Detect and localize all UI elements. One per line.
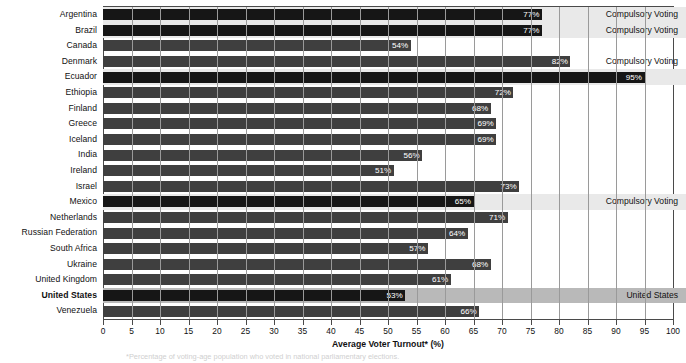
bar-value-label: 95% bbox=[103, 72, 645, 83]
category-label: Ecuador bbox=[0, 69, 97, 85]
gridline bbox=[531, 7, 532, 320]
bar-value-label: 56% bbox=[103, 150, 422, 161]
table-row: Iceland69% bbox=[0, 132, 686, 148]
tick-mark bbox=[388, 320, 389, 325]
table-row: United Kingdom61% bbox=[0, 272, 686, 288]
gridline bbox=[645, 7, 646, 320]
tick-label: 45 bbox=[355, 326, 364, 336]
gridline bbox=[474, 7, 475, 320]
table-row: Ecuador95% bbox=[0, 69, 686, 85]
tick-label: 65 bbox=[469, 326, 478, 336]
tick-mark bbox=[189, 320, 190, 325]
tick-mark bbox=[417, 320, 418, 325]
tick-label: 80 bbox=[554, 326, 563, 336]
tick-mark bbox=[559, 320, 560, 325]
category-label: Brazil bbox=[0, 23, 97, 39]
tick-label: 90 bbox=[611, 326, 620, 336]
tick-mark bbox=[246, 320, 247, 325]
category-label: Greece bbox=[0, 116, 97, 132]
tick-label: 40 bbox=[326, 326, 335, 336]
gridline bbox=[160, 7, 161, 320]
bar-value-label: 73% bbox=[103, 181, 519, 192]
tick-label: 55 bbox=[412, 326, 421, 336]
bar-value-label: 68% bbox=[103, 259, 491, 270]
tick-mark bbox=[360, 320, 361, 325]
bar-value-label: 57% bbox=[103, 243, 428, 254]
category-label: Netherlands bbox=[0, 210, 97, 226]
tick-label: 85 bbox=[583, 326, 592, 336]
category-label: Israel bbox=[0, 179, 97, 195]
gridline bbox=[417, 7, 418, 320]
table-row: Argentina77%Compulsory Voting bbox=[0, 7, 686, 23]
tick-mark bbox=[645, 320, 646, 325]
category-label: United Kingdom bbox=[0, 272, 97, 288]
category-label: Finland bbox=[0, 101, 97, 117]
gridline bbox=[388, 7, 389, 320]
gridline bbox=[189, 7, 190, 320]
category-label: Denmark bbox=[0, 54, 97, 70]
tick-mark bbox=[445, 320, 446, 325]
bar-value-label: 51% bbox=[103, 165, 394, 176]
tick-label: 10 bbox=[155, 326, 164, 336]
table-row: United States53%United States bbox=[0, 288, 686, 304]
category-label: Ireland bbox=[0, 163, 97, 179]
tick-mark bbox=[217, 320, 218, 325]
category-label: Iceland bbox=[0, 132, 97, 148]
gridline bbox=[559, 7, 560, 320]
category-label: Russian Federation bbox=[0, 225, 97, 241]
tick-label: 25 bbox=[241, 326, 250, 336]
row-annotation: United States bbox=[626, 288, 678, 304]
table-row: Mexico65%Compulsory Voting bbox=[0, 194, 686, 210]
tick-mark bbox=[303, 320, 304, 325]
category-label: Argentina bbox=[0, 7, 97, 23]
gridline bbox=[303, 7, 304, 320]
gridline bbox=[616, 7, 617, 320]
tick-mark bbox=[588, 320, 589, 325]
table-row: Canada54% bbox=[0, 38, 686, 54]
gridline bbox=[274, 7, 275, 320]
chart-footnote: *Percentage of voting-age population who… bbox=[126, 352, 596, 361]
table-row: South Africa57% bbox=[0, 241, 686, 257]
category-label: United States bbox=[0, 288, 97, 304]
category-label: Canada bbox=[0, 38, 97, 54]
tick-label: 95 bbox=[640, 326, 649, 336]
tick-label: 70 bbox=[497, 326, 506, 336]
category-label: Ethiopia bbox=[0, 85, 97, 101]
tick-label: 15 bbox=[184, 326, 193, 336]
table-row: Greece69% bbox=[0, 116, 686, 132]
table-row: Venezuela66% bbox=[0, 303, 686, 319]
table-row: Israel73% bbox=[0, 179, 686, 195]
tick-label: 60 bbox=[440, 326, 449, 336]
tick-mark bbox=[531, 320, 532, 325]
table-row: Finland68% bbox=[0, 101, 686, 117]
tick-label: 5 bbox=[129, 326, 134, 336]
bar-value-label: 71% bbox=[103, 212, 508, 223]
category-label: India bbox=[0, 147, 97, 163]
bar-value-label: 65% bbox=[103, 196, 474, 207]
tick-mark bbox=[616, 320, 617, 325]
bar-value-label: 64% bbox=[103, 228, 468, 239]
tick-mark bbox=[673, 320, 674, 325]
gridline bbox=[132, 7, 133, 320]
tick-label: 35 bbox=[298, 326, 307, 336]
tick-mark bbox=[274, 320, 275, 325]
tick-label: 20 bbox=[212, 326, 221, 336]
bar-value-label: 61% bbox=[103, 274, 451, 285]
bar-rows: Argentina77%Compulsory VotingBrazil77%Co… bbox=[0, 7, 686, 319]
tick-label: 100 bbox=[666, 326, 680, 336]
tick-mark bbox=[502, 320, 503, 325]
gridline bbox=[588, 7, 589, 320]
tick-label: 75 bbox=[526, 326, 535, 336]
tick-label: 50 bbox=[383, 326, 392, 336]
gridline bbox=[217, 7, 218, 320]
category-label: South Africa bbox=[0, 241, 97, 257]
bar-value-label: 77% bbox=[103, 25, 542, 36]
voter-turnout-chart: Argentina77%Compulsory VotingBrazil77%Co… bbox=[0, 0, 686, 363]
gridline bbox=[445, 7, 446, 320]
gridline bbox=[360, 7, 361, 320]
tick-mark bbox=[160, 320, 161, 325]
bar-value-label: 82% bbox=[103, 56, 570, 67]
gridline bbox=[246, 7, 247, 320]
tick-label: 30 bbox=[269, 326, 278, 336]
tick-mark bbox=[132, 320, 133, 325]
